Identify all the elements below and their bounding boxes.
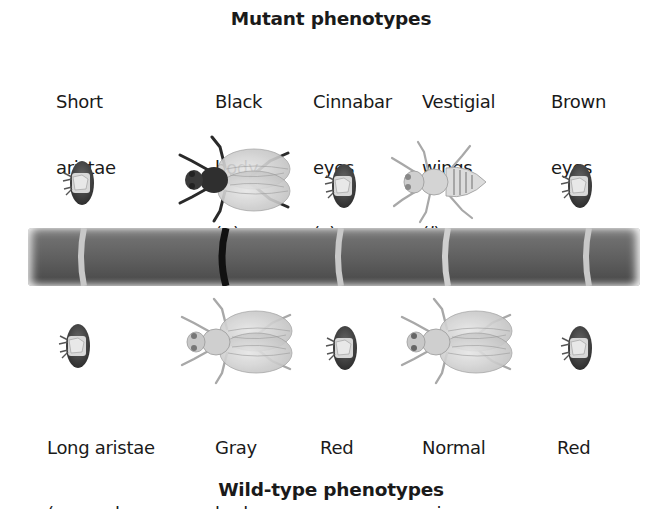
chromosome-band-aristae bbox=[76, 228, 88, 286]
chromosome-band-vestigial bbox=[440, 228, 452, 286]
chromosome bbox=[28, 228, 640, 286]
wildtype-label-long-aristae: Long aristae (appendages on head) bbox=[47, 393, 161, 509]
chromosome-band-body-color bbox=[216, 228, 228, 286]
wildtype-label-red-eyes-2: Red eyes bbox=[557, 393, 598, 509]
fly-vestigial-wings-icon bbox=[388, 138, 500, 234]
chromosome-band-brown bbox=[581, 228, 593, 286]
fly-head-cinnabar-eyes-icon bbox=[322, 158, 366, 218]
fly-head-brown-eyes-icon bbox=[558, 158, 602, 218]
chromosome-band-cinnabar bbox=[333, 228, 345, 286]
mutant-phenotypes-title: Mutant phenotypes bbox=[0, 8, 662, 29]
wildtype-label-red-eyes: Red eyes (C) bbox=[320, 393, 361, 509]
fly-normal-wings-icon bbox=[392, 297, 517, 393]
wildtype-label-gray-body: Gray body (G) bbox=[215, 393, 258, 509]
fly-black-body-icon bbox=[170, 135, 295, 231]
fly-head-red-eyes-2-icon bbox=[558, 320, 602, 380]
fly-head-long-aristae-icon bbox=[56, 318, 100, 378]
wildtype-label-normal-wings: Normal wings (L) bbox=[422, 393, 485, 509]
fly-head-short-aristae-icon bbox=[60, 155, 104, 215]
fly-gray-body-icon bbox=[172, 297, 297, 393]
fly-head-red-eyes-icon bbox=[323, 320, 367, 380]
